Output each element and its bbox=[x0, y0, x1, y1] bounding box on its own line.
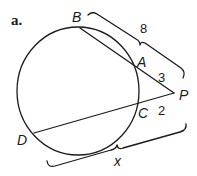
measure-label-PC: 2 bbox=[158, 103, 165, 118]
point-label-B: B bbox=[72, 9, 81, 25]
measure-label-PB: 8 bbox=[140, 21, 147, 36]
point-label-A: A bbox=[136, 54, 146, 70]
measure-label-PD: x bbox=[113, 153, 122, 169]
point-label-C: C bbox=[138, 105, 149, 121]
secant-secant-diagram: a. B A P C D 8 3 2 x bbox=[0, 0, 197, 176]
secant-PD bbox=[34, 93, 174, 133]
measure-label-PA: 3 bbox=[158, 70, 165, 85]
point-label-P: P bbox=[179, 87, 189, 103]
circle bbox=[17, 27, 139, 155]
part-label: a. bbox=[11, 12, 23, 28]
point-label-D: D bbox=[17, 132, 27, 148]
